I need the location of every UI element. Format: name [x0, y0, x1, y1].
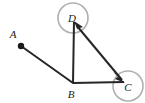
vertex-label-c: C — [124, 81, 132, 93]
segment-ab — [21, 46, 73, 83]
segment-bc — [73, 82, 124, 83]
segment-dc — [77, 26, 122, 80]
point-dot-a — [18, 43, 24, 49]
vertex-label-a: A — [9, 28, 17, 40]
geometry-figure: A B C D — [0, 0, 145, 103]
figure-svg: A B C D — [0, 0, 145, 103]
segment-bd — [73, 22, 74, 83]
vertex-label-b: B — [68, 88, 75, 100]
vertex-label-d: D — [67, 12, 76, 24]
